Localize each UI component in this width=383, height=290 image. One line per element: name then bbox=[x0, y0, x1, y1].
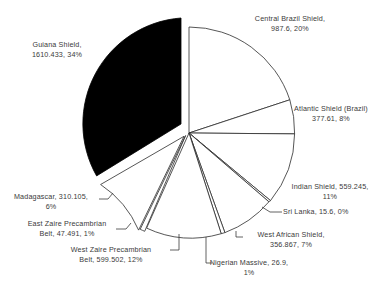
pie-label-line2: 6% bbox=[2, 202, 100, 212]
pie-label-atlantic-shield: Atlantic Shield (Brazil) 377.61, 8% bbox=[279, 104, 383, 123]
pie-label-sri-lanka: Sri Lanka, 15.6, 0% bbox=[283, 207, 383, 217]
leader-line-west-african-shield bbox=[236, 231, 243, 237]
pie-label-guiana-shield: Guiana Shield, 1610.433, 34% bbox=[11, 40, 103, 59]
leader-line-east-zaire-belt bbox=[116, 223, 131, 229]
pie-label-line1: Guiana Shield, bbox=[32, 40, 81, 49]
pie-label-west-african-shield: West African Shield, 356.867, 7% bbox=[243, 230, 339, 249]
pie-label-indian-shield: Indian Shield, 559.245, 11% bbox=[277, 182, 383, 201]
pie-label-line2: 987.6, 20% bbox=[235, 24, 345, 34]
pie-label-line2: 356.867, 7% bbox=[243, 240, 339, 250]
pie-label-line2: 1% bbox=[203, 268, 295, 278]
pie-label-west-zaire-belt: West Zaire Precambrian Belt, 599.502, 12… bbox=[55, 245, 167, 264]
pie-label-east-zaire-belt: East Zaire Precambrian Belt, 47.491, 1% bbox=[18, 219, 116, 238]
pie-label-line1: Indian Shield, 559.245, bbox=[292, 182, 369, 191]
pie-label-line1: Atlantic Shield (Brazil) bbox=[294, 104, 368, 113]
pie-label-line1: West African Shield, bbox=[257, 230, 324, 239]
leader-line-sri-lanka bbox=[262, 207, 282, 212]
pie-label-line2: 377.61, 8% bbox=[279, 114, 383, 124]
pie-label-line1: Sri Lanka, 15.6, 0% bbox=[283, 207, 348, 216]
pie-label-line1: Central Brazil Shield, bbox=[255, 14, 325, 23]
pie-chart: Central Brazil Shield, 987.6, 20% Atlant… bbox=[0, 0, 383, 290]
pie-label-line1: West Zaire Precambrian bbox=[71, 245, 152, 254]
pie-label-line2: 1610.433, 34% bbox=[11, 50, 103, 60]
pie-label-nigerian-massive: Nigerian Massive, 26.9, 1% bbox=[203, 258, 295, 277]
pie-label-line1: Nigerian Massive, 26.9, bbox=[210, 258, 288, 267]
pie-label-line2: Belt, 47.491, 1% bbox=[18, 229, 116, 239]
pie-label-line1: Madagascar, 310.105, bbox=[14, 192, 88, 201]
pie-label-line1: East Zaire Precambrian bbox=[28, 219, 107, 228]
pie-label-line2: Belt, 599.502, 12% bbox=[55, 255, 167, 265]
pie-label-central-brazil-shield: Central Brazil Shield, 987.6, 20% bbox=[235, 14, 345, 33]
pie-label-line2: 11% bbox=[277, 192, 383, 202]
leader-line-madagascar bbox=[99, 193, 113, 199]
pie-label-madagascar: Madagascar, 310.105, 6% bbox=[2, 192, 100, 211]
